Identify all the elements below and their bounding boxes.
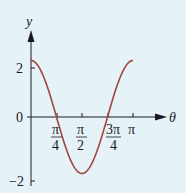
x-tick-label-pi2-den: 2 (77, 138, 84, 153)
x-tick-label-pi2-num: π (77, 122, 84, 137)
x-tick-label-pi4-den: 4 (52, 138, 59, 153)
y-tick-label-2: 2 (16, 61, 23, 76)
chart-svg: y θ 2 0 −2 π 4 π 2 3π 4 π (0, 0, 186, 193)
x-tick-label-pi: π (128, 122, 135, 137)
x-axis-arrow-icon (155, 114, 167, 121)
y-tick-label-neg2: −2 (9, 174, 24, 189)
chart: y θ 2 0 −2 π 4 π 2 3π 4 π (0, 0, 186, 193)
x-tick-label-3pi4-num: 3π (106, 122, 120, 137)
y-axis-arrow-icon (28, 30, 35, 42)
y-axis-label: y (24, 14, 33, 29)
x-tick-label-pi4-num: π (52, 122, 59, 137)
x-axis-label: θ (169, 110, 176, 125)
x-tick-label-3pi4-den: 4 (110, 138, 117, 153)
y-tick-label-0: 0 (16, 110, 23, 125)
